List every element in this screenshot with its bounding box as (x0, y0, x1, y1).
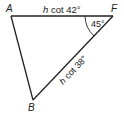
edge-ab (11, 16, 33, 100)
vertex-label-f: F (111, 3, 118, 14)
edge-label-af-text: cot 42° (48, 4, 81, 15)
vertex-label-b: B (28, 102, 35, 113)
angle-label-f: 45° (91, 19, 105, 29)
vertex-label-a: A (5, 3, 13, 14)
edge-label-af: h cot 42° (43, 4, 81, 15)
edge-label-fb-text: cot 38° (61, 53, 90, 82)
triangle-diagram: A F B h cot 42° h cot 38° 45° (0, 0, 124, 115)
